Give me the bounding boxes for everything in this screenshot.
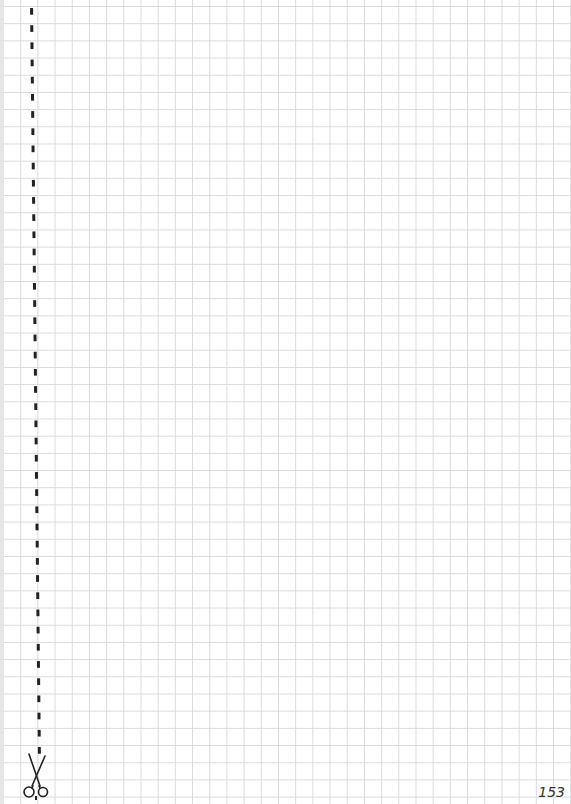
page-edge [0, 0, 4, 804]
grid-paper-page: 153 [0, 0, 571, 804]
dashed-cut-line [30, 8, 41, 756]
scissors-icon [20, 752, 52, 800]
page-number: 153 [538, 784, 565, 800]
